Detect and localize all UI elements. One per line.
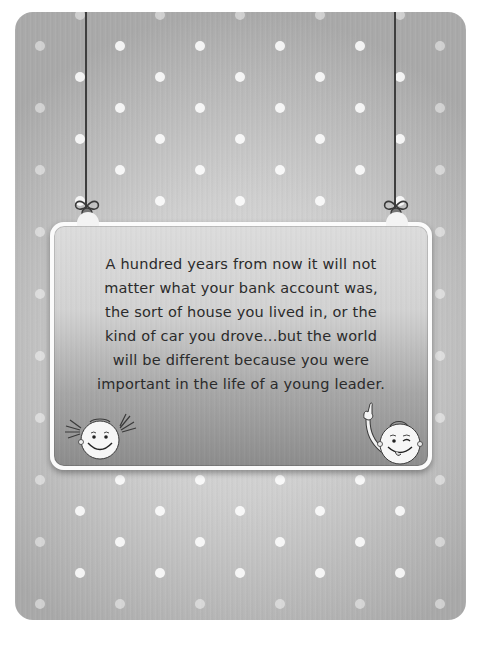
quote-line: the sort of house you lived in, or the bbox=[54, 300, 428, 324]
quote-line: will be different because you were bbox=[54, 348, 428, 372]
smiling-girl-face-icon bbox=[60, 408, 140, 468]
quote-line: matter what your bank account was, bbox=[54, 276, 428, 300]
quote-line: A hundred years from now it will not bbox=[54, 252, 428, 276]
winking-boy-waving-icon bbox=[354, 398, 432, 470]
right-hanging-string bbox=[394, 12, 396, 210]
left-hanging-string bbox=[85, 12, 87, 210]
hanging-sign: A hundred years from now it will not mat… bbox=[50, 222, 432, 470]
quote-text: A hundred years from now it will not mat… bbox=[54, 252, 428, 396]
quote-line: important in the life of a young leader. bbox=[54, 372, 428, 396]
quote-line: kind of car you drove...but the world bbox=[54, 324, 428, 348]
